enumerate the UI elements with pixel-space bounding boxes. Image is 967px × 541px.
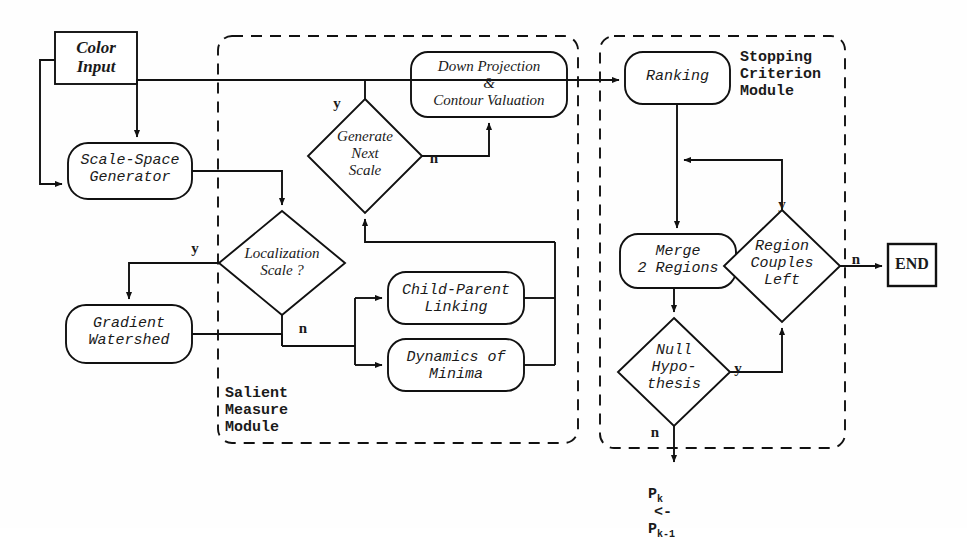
hit-generate-next-scale[interactable]: [308, 99, 422, 213]
hit-child-parent-linking[interactable]: [388, 272, 524, 324]
hit-scale-space-generator[interactable]: [68, 143, 192, 199]
hit-region-couples-left[interactable]: [724, 210, 840, 322]
edge-null-yes-to-region-couples: [730, 328, 782, 372]
hit-null-hypothesis[interactable]: [618, 318, 730, 426]
hit-color-input[interactable]: [55, 32, 137, 84]
hit-dynamics-of-minima[interactable]: [388, 339, 524, 391]
edge-region-couples-yes: [684, 160, 782, 210]
edge-join-to-generate-next-scale: [365, 219, 555, 242]
hit-down-projection[interactable]: [411, 52, 567, 117]
hit-gradient-watershed[interactable]: [66, 305, 192, 363]
hit-ranking[interactable]: [625, 52, 730, 104]
hit-merge-2-regions[interactable]: [620, 234, 736, 288]
formula-sub-2: k-1: [657, 529, 675, 540]
edge-scale-space-to-localization: [192, 171, 282, 205]
hit-localization-scale[interactable]: [219, 211, 345, 315]
hit-end[interactable]: [888, 244, 936, 286]
edge-localization-yes-to-watershed: [129, 263, 219, 299]
edge-generate-no-to-down-projection: [422, 123, 489, 156]
